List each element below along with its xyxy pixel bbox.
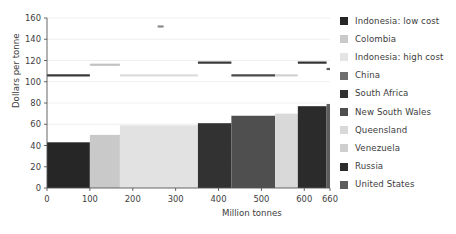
y-tick-labels: 020406080100120140160 xyxy=(25,13,41,193)
legend-item[interactable]: South Africa xyxy=(340,85,456,103)
legend-swatch-icon xyxy=(340,126,348,134)
legend-item[interactable]: China xyxy=(340,67,456,85)
legend-item-label: Queensland xyxy=(355,126,407,135)
legend-item-label: Colombia xyxy=(355,35,396,44)
x-tick-label: 500 xyxy=(253,194,269,204)
y-tick-label: 60 xyxy=(30,119,41,129)
y-axis-title: Dollars per tonne xyxy=(11,34,21,108)
x-tick-labels: 0100200300400500600660 xyxy=(44,194,338,204)
legend-item[interactable]: Indonesia: high cost xyxy=(340,48,456,66)
bar xyxy=(231,116,275,188)
legend-swatch-icon xyxy=(340,35,348,43)
y-tick-label: 20 xyxy=(30,162,41,172)
legend-item[interactable]: Indonesia: low cost xyxy=(340,12,456,30)
bars-group xyxy=(47,104,330,188)
legend-swatch-icon xyxy=(340,144,348,152)
bar xyxy=(198,123,231,188)
legend-swatch-icon xyxy=(340,108,348,116)
legend-item[interactable]: Colombia xyxy=(340,30,456,48)
legend-item-label: Russia xyxy=(355,162,383,171)
y-tick-label: 120 xyxy=(25,56,41,66)
bar xyxy=(327,104,330,188)
legend-item-label: Venezuela xyxy=(355,144,400,153)
cost-curve-chart: 020406080100120140160 010020030040050060… xyxy=(0,0,456,234)
legend-item-label: New South Wales xyxy=(355,108,431,117)
legend-item[interactable]: Queensland xyxy=(340,121,456,139)
bar xyxy=(120,125,198,188)
price-lines-group xyxy=(47,27,330,76)
bar xyxy=(275,114,298,188)
legend-item[interactable]: Venezuela xyxy=(340,139,456,157)
y-tick-label: 40 xyxy=(30,141,41,151)
legend-item-label: South Africa xyxy=(355,89,408,98)
y-tick-label: 0 xyxy=(36,183,41,193)
y-tick-label: 80 xyxy=(30,98,41,108)
legend-item-label: Indonesia: low cost xyxy=(355,17,439,26)
x-axis-title: Million tonnes xyxy=(222,208,282,218)
x-tick-label: 400 xyxy=(211,194,227,204)
x-tick-label: 200 xyxy=(125,194,141,204)
bar xyxy=(90,135,120,188)
legend-swatch-icon xyxy=(340,163,348,171)
legend-item[interactable]: New South Wales xyxy=(340,103,456,121)
y-tick-label: 140 xyxy=(25,34,41,44)
legend-swatch-icon xyxy=(340,90,348,98)
legend-item[interactable]: Russia xyxy=(340,158,456,176)
y-tick-label: 160 xyxy=(25,13,41,23)
x-tick-label: 600 xyxy=(296,194,312,204)
legend-item-label: United States xyxy=(355,180,415,189)
x-tick-label: 660 xyxy=(322,194,338,204)
legend-item-label: China xyxy=(355,71,380,80)
x-tick-label: 0 xyxy=(44,194,49,204)
x-tick-label: 100 xyxy=(82,194,98,204)
chart-legend: Indonesia: low costColombiaIndonesia: hi… xyxy=(340,12,456,194)
bar xyxy=(47,142,90,188)
legend-swatch-icon xyxy=(340,17,348,25)
y-tick-label: 100 xyxy=(25,77,41,87)
legend-swatch-icon xyxy=(340,72,348,80)
legend-item[interactable]: United States xyxy=(340,176,456,194)
legend-item-label: Indonesia: high cost xyxy=(355,53,443,62)
x-tick-label: 300 xyxy=(168,194,184,204)
legend-swatch-icon xyxy=(340,53,348,61)
legend-swatch-icon xyxy=(340,181,348,189)
bar xyxy=(298,106,327,188)
